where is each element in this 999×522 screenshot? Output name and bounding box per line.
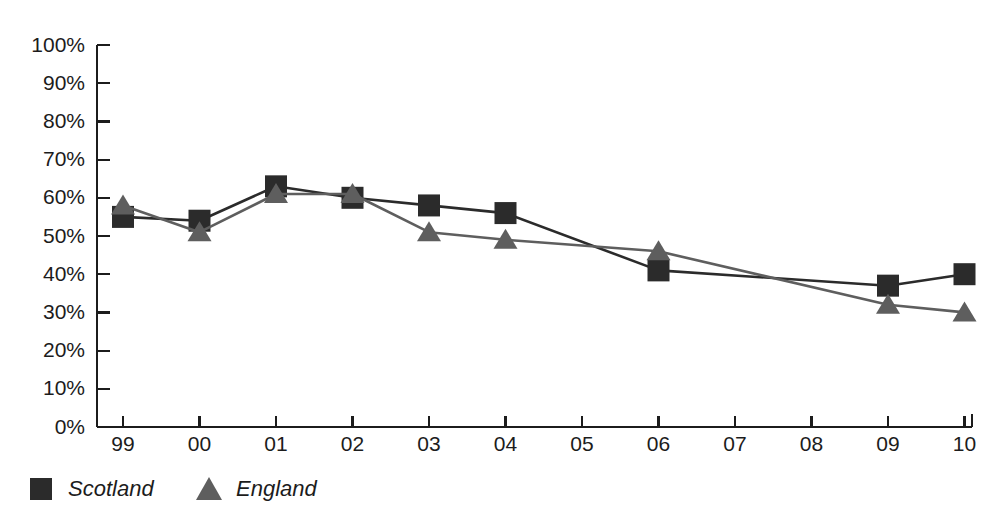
y-tick-label-90: 90% <box>43 71 85 94</box>
y-tick-label-80: 80% <box>43 109 85 132</box>
y-tick-label-0: 0% <box>55 415 85 438</box>
y-tick-label-70: 70% <box>43 147 85 170</box>
marker-scotland-03 <box>418 194 440 216</box>
x-tick-label-03: 03 <box>417 432 440 455</box>
y-tick-label-50: 50% <box>43 224 85 247</box>
marker-scotland-06 <box>648 259 670 281</box>
x-tick-label-09: 09 <box>876 432 899 455</box>
y-tick-label-20: 20% <box>43 338 85 361</box>
x-tick-label-99: 99 <box>111 432 134 455</box>
y-tick-label-60: 60% <box>43 185 85 208</box>
y-tick-label-40: 40% <box>43 262 85 285</box>
y-tick-label-30: 30% <box>43 300 85 323</box>
legend-item-scotland: Scotland <box>30 476 154 501</box>
x-tick-label-10: 10 <box>953 432 976 455</box>
y-tick-label-100: 100% <box>31 33 85 56</box>
marker-scotland-09 <box>877 275 899 297</box>
marker-scotland-04 <box>495 202 517 224</box>
y-tick-label-10: 10% <box>43 376 85 399</box>
chart-canvas: 0%10%20%30%40%50%60%70%80%90%100% 990001… <box>0 0 999 522</box>
line-chart: 0%10%20%30%40%50%60%70%80%90%100% 990001… <box>0 0 999 522</box>
x-tick-label-00: 00 <box>188 432 211 455</box>
x-tick-label-06: 06 <box>647 432 670 455</box>
marker-scotland-10 <box>954 263 976 285</box>
x-tick-label-08: 08 <box>800 432 823 455</box>
x-tick-label-01: 01 <box>264 432 287 455</box>
x-tick-label-04: 04 <box>494 432 518 455</box>
legend-square-icon <box>30 478 52 500</box>
x-tick-label-02: 02 <box>341 432 364 455</box>
legend-label-scotland: Scotland <box>68 476 154 501</box>
legend-label-england: England <box>236 476 318 501</box>
x-tick-label-05: 05 <box>570 432 593 455</box>
x-tick-label-07: 07 <box>723 432 746 455</box>
